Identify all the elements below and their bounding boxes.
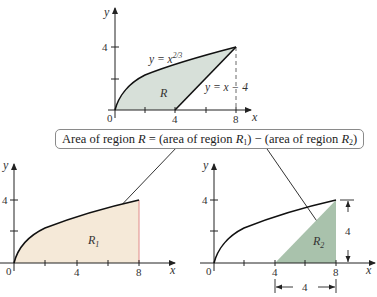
- region-r2-fill: [275, 200, 336, 263]
- x-tick-label-8: 8: [333, 266, 339, 278]
- origin-label: 0: [6, 265, 12, 277]
- y-tick-label-4: 4: [2, 194, 8, 206]
- x-tick-label-4: 4: [272, 266, 278, 278]
- origin-label: 0: [107, 112, 113, 124]
- area-caption: Area of region R = (area of region R1) −…: [55, 129, 364, 149]
- x-tick-label-8: 8: [233, 113, 239, 125]
- line-label: y = x − 4: [204, 81, 248, 94]
- y-tick-label-4: 4: [202, 194, 208, 206]
- y-axis-label: y: [2, 158, 9, 172]
- height-dim-label: 4: [345, 225, 351, 237]
- x-axis-label: x: [251, 110, 258, 124]
- x-tick-label-4: 4: [74, 266, 80, 278]
- x-axis-label: x: [365, 263, 372, 277]
- region-r-label: R: [159, 86, 168, 100]
- top-graph: y x 0 4 8 4 y = x2/3 y = x − 4 R: [102, 5, 258, 125]
- origin-label: 0: [206, 265, 212, 277]
- y-tick-label-4: 4: [102, 41, 108, 53]
- region-r1-fill: [14, 200, 139, 263]
- x-axis-label: x: [169, 263, 176, 277]
- x-tick-label-4: 4: [172, 113, 178, 125]
- base-dim-label: 4: [302, 281, 308, 293]
- y-axis-label: y: [202, 158, 209, 172]
- x-tick-label-8: 8: [136, 266, 142, 278]
- y-axis-label: y: [103, 5, 110, 19]
